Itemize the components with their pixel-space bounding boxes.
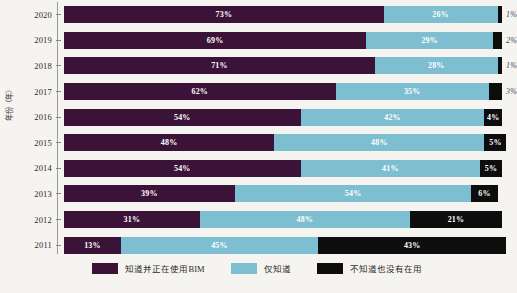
bar-segment-value: 71% [211, 61, 228, 70]
stacked-bar: 73%26%1% [64, 6, 502, 23]
bar-segment-using: 54% [64, 160, 301, 177]
bar-segment-value: 42% [384, 113, 401, 122]
bar-segment-value: 3% [506, 87, 517, 96]
bar-segment-value: 43% [404, 241, 421, 250]
y-tick-label: 2019 [22, 35, 56, 45]
bar-segment-value: 1% [506, 10, 517, 19]
legend-swatch-using [92, 263, 118, 274]
stacked-bar: 48%48%5% [64, 134, 502, 151]
bar-segment-unaware: 5% [480, 160, 502, 177]
stacked-bar: 39%54%6% [64, 185, 502, 202]
bar-segment-using: 13% [64, 237, 121, 254]
y-tick-label: 2015 [22, 138, 56, 148]
chart-row: 201454%41%5% [22, 156, 502, 182]
chart-row: 201339%54%6% [22, 181, 502, 207]
y-tick-label: 2017 [22, 87, 56, 97]
bar-segment-using: 54% [64, 109, 301, 126]
axis-tick-mark [56, 65, 61, 66]
chart-row: 201548%48%5% [22, 130, 502, 156]
bar-segment-unaware: 21% [410, 211, 502, 228]
stacked-bar: 69%29%2% [64, 32, 502, 49]
bar-segment-value: 5% [489, 138, 501, 147]
bar-segment-value: 39% [141, 189, 158, 198]
bar-segment-aware: 48% [274, 134, 484, 151]
bar-segment-value: 54% [174, 164, 191, 173]
legend-swatch-unaware [317, 263, 343, 274]
bar-segment-value: 6% [478, 189, 490, 198]
stacked-bar: 13%45%43% [64, 237, 502, 254]
bar-segment-using: 31% [64, 211, 200, 228]
bar-segment-aware: 29% [366, 32, 493, 49]
axis-tick-mark [56, 245, 61, 246]
y-tick-label: 2013 [22, 189, 56, 199]
legend-swatch-aware [231, 263, 257, 274]
bar-segment-value: 48% [297, 215, 314, 224]
y-tick-label: 2016 [22, 112, 56, 122]
stacked-bar: 54%42%4% [64, 109, 502, 126]
legend-item-unaware[interactable]: 不知道也没有在用 [317, 262, 422, 274]
bar-segment-value: 21% [448, 215, 465, 224]
bar-segment-using: 39% [64, 185, 235, 202]
bar-segment-value: 13% [84, 241, 101, 250]
bar-segment-using: 48% [64, 134, 274, 151]
bar-segment-unaware: 1% [498, 6, 502, 23]
chart-legend: 知道并正在使用BIM仅知道不知道也没有在用 [0, 262, 514, 274]
bar-segment-value: 1% [506, 61, 517, 70]
bar-segment-value: 4% [487, 113, 499, 122]
stacked-bar: 54%41%5% [64, 160, 502, 177]
y-tick-label: 2012 [22, 215, 56, 225]
chart-row: 202073%26%1% [22, 2, 502, 28]
bar-segment-value: 62% [191, 87, 208, 96]
legend-item-aware[interactable]: 仅知道 [231, 262, 291, 274]
bar-segment-value: 54% [174, 113, 191, 122]
bar-segment-value: 48% [161, 138, 178, 147]
bar-segment-aware: 54% [235, 185, 472, 202]
bar-segment-value: 31% [124, 215, 141, 224]
bar-segment-using: 71% [64, 57, 375, 74]
chart-row: 201969%29%2% [22, 28, 502, 54]
axis-tick-mark [56, 219, 61, 220]
legend-label: 仅知道 [264, 262, 291, 274]
stacked-bar: 71%28%1% [64, 57, 502, 74]
y-tick-label: 2014 [22, 163, 56, 173]
y-tick-label: 2020 [22, 10, 56, 20]
bar-segment-unaware: 6% [471, 185, 497, 202]
bar-segment-value: 29% [421, 36, 438, 45]
chart-row: 201231%48%21% [22, 207, 502, 233]
bar-segment-unaware: 43% [318, 237, 506, 254]
legend-label: 不知道也没有在用 [350, 262, 422, 274]
bar-segment-value: 41% [382, 164, 399, 173]
bar-segment-unaware: 2% [493, 32, 502, 49]
bar-segment-using: 62% [64, 83, 336, 100]
bar-segment-value: 28% [428, 61, 445, 70]
bar-segment-value: 5% [485, 164, 497, 173]
legend-label: 知道并正在使用BIM [125, 262, 204, 274]
bar-segment-aware: 26% [384, 6, 498, 23]
bar-segment-unaware: 4% [484, 109, 502, 126]
bar-segment-value: 26% [432, 10, 449, 19]
bar-segment-aware: 35% [336, 83, 489, 100]
plot-area: 202073%26%1%201969%29%2%201871%28%1%2017… [22, 2, 502, 258]
bar-segment-aware: 48% [200, 211, 410, 228]
bar-segment-using: 73% [64, 6, 384, 23]
stacked-bar: 31%48%21% [64, 211, 502, 228]
y-axis-title: 年份（年） [3, 72, 14, 136]
bar-segment-aware: 42% [301, 109, 485, 126]
bar-segment-value: 45% [211, 241, 228, 250]
axis-tick-mark [56, 142, 61, 143]
chart-row: 201113%45%43% [22, 232, 502, 258]
bar-segment-aware: 41% [301, 160, 481, 177]
chart-row: 201762%35%3% [22, 79, 502, 105]
bar-segment-value: 54% [345, 189, 362, 198]
bar-segment-aware: 28% [375, 57, 498, 74]
stacked-bar: 62%35%3% [64, 83, 502, 100]
y-tick-label: 2018 [22, 61, 56, 71]
legend-item-using[interactable]: 知道并正在使用BIM [92, 262, 204, 274]
bar-segment-unaware: 5% [484, 134, 506, 151]
chart-row: 201871%28%1% [22, 53, 502, 79]
axis-tick-mark [56, 193, 61, 194]
bar-segment-aware: 45% [121, 237, 318, 254]
bar-segment-value: 69% [207, 36, 224, 45]
bar-segment-using: 69% [64, 32, 366, 49]
